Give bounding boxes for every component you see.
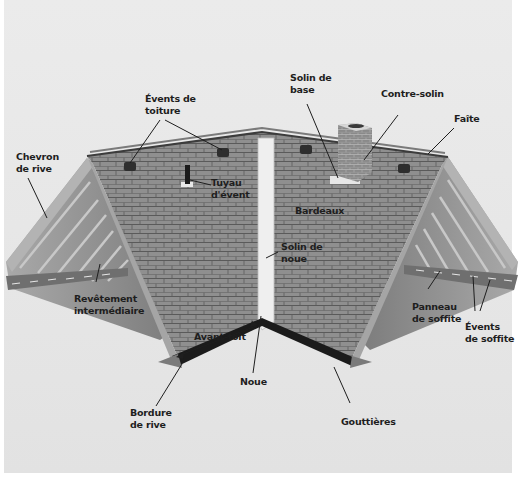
label-solin-de-base: Solin de base bbox=[290, 72, 332, 96]
label-faite: Faîte bbox=[454, 113, 480, 125]
label-contre-solin: Contre-solin bbox=[381, 88, 444, 100]
label-solin-de-noue: Solin de noue bbox=[281, 241, 323, 265]
label-gouttieres: Gouttières bbox=[341, 416, 396, 428]
valley-flashing bbox=[258, 138, 274, 330]
roof-illustration bbox=[0, 0, 524, 481]
label-panneau-de-soffite: Panneau de soffite bbox=[412, 301, 461, 325]
label-tuyau-d-event: Tuyau d'évent bbox=[211, 177, 250, 201]
label-noue: Noue bbox=[240, 376, 267, 388]
label-bordure-de-rive: Bordure de rive bbox=[130, 407, 172, 431]
label-chevron-de-rive: Chevron de rive bbox=[16, 151, 59, 175]
label-events-de-toiture: Évents de toiture bbox=[145, 93, 196, 117]
label-avant-toit: Avant-toit bbox=[194, 331, 246, 343]
label-revetement-intermediaire: Revêtement intermédiaire bbox=[74, 293, 144, 317]
label-events-de-soffite: Évents de soffite bbox=[465, 321, 514, 345]
label-bardeaux: Bardeaux bbox=[295, 205, 344, 217]
